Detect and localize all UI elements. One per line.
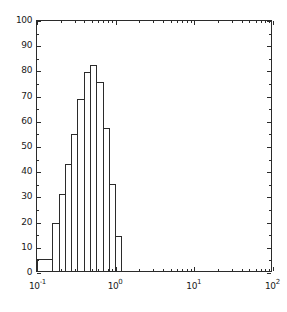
histogram-figure: 010203040506070809010010-1100101102 bbox=[0, 0, 287, 312]
x-tick-mantissa: 10 bbox=[108, 281, 119, 291]
x-axis-minor-tick bbox=[177, 21, 178, 23]
x-tick-exponent: 0 bbox=[118, 278, 122, 286]
x-axis-minor-tick bbox=[98, 21, 99, 23]
x-axis-minor-tick bbox=[108, 269, 109, 271]
x-axis-minor-tick bbox=[218, 21, 219, 23]
plot-frame bbox=[36, 20, 272, 272]
x-axis-minor-tick bbox=[163, 269, 164, 271]
y-axis-major-tick bbox=[37, 248, 41, 249]
histogram-bars bbox=[37, 21, 271, 271]
y-axis-minor-tick bbox=[37, 34, 39, 35]
x-axis-minor-tick bbox=[232, 21, 233, 23]
y-axis-major-tick bbox=[37, 172, 41, 173]
y-axis-minor-tick bbox=[37, 109, 39, 110]
x-axis-minor-tick bbox=[92, 269, 93, 271]
x-axis-minor-tick bbox=[108, 21, 109, 23]
y-axis-minor-tick bbox=[269, 160, 271, 161]
x-axis-tick-label: 101 bbox=[186, 279, 201, 291]
y-axis-tick-label: 90 bbox=[6, 41, 32, 50]
x-axis-major-tick bbox=[116, 267, 117, 271]
x-axis-minor-tick bbox=[153, 21, 154, 23]
x-axis-minor-tick bbox=[269, 21, 270, 23]
x-axis-minor-tick bbox=[187, 21, 188, 23]
x-axis-minor-tick bbox=[242, 21, 243, 23]
x-axis-minor-tick bbox=[163, 21, 164, 23]
y-axis-tick-label: 0 bbox=[6, 268, 32, 277]
x-axis-major-tick bbox=[273, 21, 274, 25]
y-axis-minor-tick bbox=[37, 59, 39, 60]
y-axis-tick-label: 30 bbox=[6, 192, 32, 201]
y-axis-major-tick bbox=[37, 273, 41, 274]
y-axis-major-tick bbox=[267, 273, 271, 274]
y-axis-major-tick bbox=[37, 147, 41, 148]
x-axis-minor-tick bbox=[269, 269, 270, 271]
y-axis-tick-label: 70 bbox=[6, 92, 32, 101]
x-axis-major-tick bbox=[194, 267, 195, 271]
x-axis-minor-tick bbox=[61, 21, 62, 23]
x-axis-major-tick bbox=[37, 267, 38, 271]
y-axis-major-tick bbox=[37, 71, 41, 72]
y-axis-minor-tick bbox=[269, 185, 271, 186]
x-axis-minor-tick bbox=[92, 21, 93, 23]
y-axis-major-tick bbox=[37, 46, 41, 47]
x-axis-major-tick bbox=[194, 21, 195, 25]
x-tick-mantissa: 10 bbox=[186, 281, 197, 291]
y-axis-minor-tick bbox=[269, 235, 271, 236]
x-axis-tick-label: 10-1 bbox=[29, 279, 46, 291]
x-axis-minor-tick bbox=[103, 21, 104, 23]
x-axis-minor-tick bbox=[191, 21, 192, 23]
x-axis-minor-tick bbox=[112, 269, 113, 271]
y-axis-tick-label: 10 bbox=[6, 243, 32, 252]
y-axis-major-tick bbox=[267, 223, 271, 224]
x-axis-minor-tick bbox=[103, 269, 104, 271]
y-axis-minor-tick bbox=[269, 59, 271, 60]
y-axis-minor-tick bbox=[269, 260, 271, 261]
x-axis-minor-tick bbox=[249, 21, 250, 23]
x-tick-exponent: -1 bbox=[40, 278, 46, 286]
x-axis-major-tick bbox=[273, 267, 274, 271]
x-axis-minor-tick bbox=[191, 269, 192, 271]
x-axis-major-tick bbox=[116, 21, 117, 25]
x-axis-minor-tick bbox=[139, 269, 140, 271]
y-axis-tick-label: 50 bbox=[6, 142, 32, 151]
x-axis-minor-tick bbox=[139, 21, 140, 23]
x-axis-minor-tick bbox=[61, 269, 62, 271]
y-axis-minor-tick bbox=[37, 185, 39, 186]
x-axis-minor-tick bbox=[218, 269, 219, 271]
x-axis-minor-tick bbox=[177, 269, 178, 271]
x-axis-minor-tick bbox=[242, 269, 243, 271]
y-axis-major-tick bbox=[267, 248, 271, 249]
y-axis-minor-tick bbox=[37, 235, 39, 236]
x-tick-mantissa: 10 bbox=[265, 281, 276, 291]
x-axis-minor-tick bbox=[98, 269, 99, 271]
y-axis-tick-label: 100 bbox=[6, 16, 32, 25]
y-axis-major-tick bbox=[267, 71, 271, 72]
x-axis-minor-tick bbox=[249, 269, 250, 271]
x-axis-minor-tick bbox=[256, 269, 257, 271]
x-axis-minor-tick bbox=[265, 269, 266, 271]
y-axis-tick-label: 20 bbox=[6, 218, 32, 227]
y-axis-major-tick bbox=[267, 97, 271, 98]
y-axis-tick-label: 80 bbox=[6, 66, 32, 75]
y-axis-minor-tick bbox=[37, 134, 39, 135]
x-axis-minor-tick bbox=[171, 269, 172, 271]
x-axis-minor-tick bbox=[182, 21, 183, 23]
y-axis-major-tick bbox=[267, 172, 271, 173]
y-axis-minor-tick bbox=[269, 134, 271, 135]
y-axis-minor-tick bbox=[37, 160, 39, 161]
y-axis-major-tick bbox=[267, 122, 271, 123]
y-axis-tick-label: 60 bbox=[6, 117, 32, 126]
x-axis-minor-tick bbox=[232, 269, 233, 271]
x-axis-minor-tick bbox=[265, 21, 266, 23]
x-tick-exponent: 1 bbox=[197, 278, 201, 286]
x-axis-minor-tick bbox=[171, 21, 172, 23]
x-axis-minor-tick bbox=[261, 21, 262, 23]
y-axis-major-tick bbox=[37, 223, 41, 224]
y-axis-minor-tick bbox=[37, 84, 39, 85]
y-axis-major-tick bbox=[267, 147, 271, 148]
y-axis-minor-tick bbox=[37, 210, 39, 211]
y-axis-major-tick bbox=[37, 122, 41, 123]
x-axis-minor-tick bbox=[256, 21, 257, 23]
x-axis-minor-tick bbox=[187, 269, 188, 271]
plot-area bbox=[37, 21, 271, 271]
